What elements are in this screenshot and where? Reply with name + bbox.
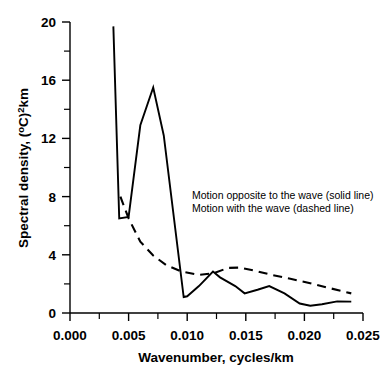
y-tick-label-0: 0: [48, 306, 56, 321]
x-axis-minor-ticks: [99, 313, 333, 319]
legend-line-solid: Motion opposite to the wave (solid line): [192, 189, 374, 201]
y-axis-title-main: Spectral density, (: [16, 132, 31, 248]
chart-figure: 0 4 8 12 16 20 0.000 0.005 0.010 0.015 0…: [0, 0, 389, 374]
x-tick-label-2: 0.010: [170, 328, 204, 343]
x-tick-label-3: 0.015: [229, 328, 263, 343]
x-tick-label-5: 0.025: [346, 328, 380, 343]
y-tick-label-4: 4: [48, 248, 56, 263]
y-tick-label-20: 20: [41, 15, 56, 30]
series-solid-motion-opposite: [113, 26, 351, 305]
x-tick-label-0: 0.000: [53, 328, 87, 343]
y-tick-label-16: 16: [41, 73, 57, 88]
y-axis-title: Spectral density, (oC)2km: [15, 88, 31, 248]
y-tick-label-8: 8: [48, 190, 56, 205]
svg-text:Spectral density, (oC)2km: Spectral density, (oC)2km: [15, 88, 31, 248]
x-axis-title: Wavenumber, cycles/km: [138, 350, 294, 365]
x-tick-label-1: 0.005: [112, 328, 146, 343]
legend-line-dashed: Motion with the wave (dashed line): [192, 202, 354, 214]
x-tick-label-4: 0.020: [288, 328, 322, 343]
y-axis-minor-ticks: [64, 51, 70, 284]
spectral-density-plot: 0 4 8 12 16 20 0.000 0.005 0.010 0.015 0…: [0, 0, 389, 374]
y-axis-title-c: C): [16, 113, 31, 127]
y-tick-label-12: 12: [41, 131, 56, 146]
y-axis-title-unit: km: [16, 88, 31, 108]
